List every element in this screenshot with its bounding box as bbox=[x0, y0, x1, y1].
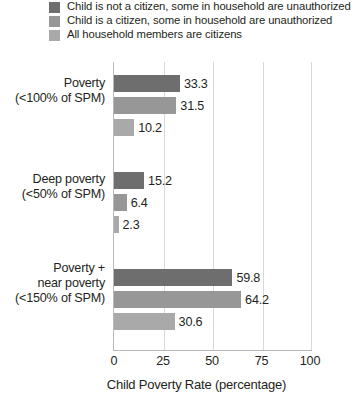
category-label-line: near poverty bbox=[0, 276, 105, 291]
chart-figure: Child is not a citizen, some in househol… bbox=[0, 0, 363, 406]
bar-deep-poverty-citizen-child[interactable] bbox=[114, 194, 127, 211]
gridline-75 bbox=[263, 62, 264, 350]
bar-value-label: 6.4 bbox=[131, 196, 148, 209]
legend-item-label: Child is not a citizen, some in househol… bbox=[67, 1, 351, 12]
category-label-line: Deep poverty bbox=[0, 172, 105, 187]
category-label-poverty: Poverty (<100% of SPM) bbox=[0, 76, 105, 106]
x-tick-label: 25 bbox=[156, 355, 170, 368]
plot-area: 33.3 31.5 10.2 15.2 6.4 2.3 59.8 bbox=[113, 62, 312, 351]
x-axis-tick-labels: 0 25 50 75 100 bbox=[113, 352, 311, 370]
bar-deep-poverty-noncitizen-child[interactable] bbox=[114, 172, 144, 189]
bar-value-label: 10.2 bbox=[138, 121, 162, 134]
x-tick-label: 75 bbox=[255, 355, 269, 368]
bar-poverty-noncitizen-child[interactable] bbox=[114, 75, 180, 92]
bar-value-label: 33.3 bbox=[184, 77, 208, 90]
bar-value-label: 64.2 bbox=[245, 293, 269, 306]
x-axis-title: Child Poverty Rate (percentage) bbox=[0, 378, 363, 391]
gridline-100 bbox=[311, 62, 312, 350]
bar-deep-poverty-all-citizens[interactable] bbox=[114, 216, 119, 233]
bar-value-label: 15.2 bbox=[148, 174, 172, 187]
bar-value-label: 30.6 bbox=[179, 315, 203, 328]
legend-swatch-icon bbox=[49, 2, 60, 13]
legend-item[interactable]: Child is not a citizen, some in househol… bbox=[0, 0, 363, 14]
category-label-line: (<100% of SPM) bbox=[0, 91, 105, 106]
bar-near-poverty-citizen-child[interactable] bbox=[114, 291, 241, 308]
bar-value-label: 59.8 bbox=[236, 271, 260, 284]
bar-poverty-all-citizens[interactable] bbox=[114, 119, 134, 136]
bar-value-label: 31.5 bbox=[180, 99, 204, 112]
legend-swatch-icon bbox=[49, 16, 60, 27]
y-axis-category-labels: Poverty (<100% of SPM) Deep poverty (<50… bbox=[0, 62, 113, 350]
category-label-poverty-near-poverty: Poverty + near poverty (<150% of SPM) bbox=[0, 261, 105, 306]
category-label-deep-poverty: Deep poverty (<50% of SPM) bbox=[0, 172, 105, 202]
category-label-line: Poverty + bbox=[0, 261, 105, 276]
bar-near-poverty-all-citizens[interactable] bbox=[114, 313, 175, 330]
legend-item-label: Child is a citizen, some in household ar… bbox=[67, 15, 332, 26]
legend-item[interactable]: Child is a citizen, some in household ar… bbox=[0, 14, 363, 28]
legend-swatch-icon bbox=[49, 30, 60, 41]
legend-item-label: All household members are citizens bbox=[67, 29, 242, 40]
bar-poverty-citizen-child[interactable] bbox=[114, 97, 176, 114]
x-tick-label: 100 bbox=[300, 355, 320, 368]
category-label-line: Poverty bbox=[0, 76, 105, 91]
x-tick-label: 50 bbox=[205, 355, 219, 368]
bar-near-poverty-noncitizen-child[interactable] bbox=[114, 269, 232, 286]
x-tick-label: 0 bbox=[111, 355, 118, 368]
legend-item[interactable]: All household members are citizens bbox=[0, 28, 363, 42]
bar-value-label: 2.3 bbox=[123, 218, 140, 231]
category-label-line: (<150% of SPM) bbox=[0, 291, 105, 306]
chart-legend: Child is not a citizen, some in househol… bbox=[0, 0, 363, 42]
category-label-line: (<50% of SPM) bbox=[0, 187, 105, 202]
